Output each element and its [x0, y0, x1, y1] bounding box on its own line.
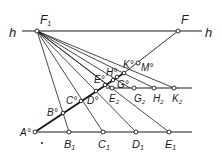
- label-A: A°: [19, 127, 31, 138]
- point-C1: [101, 130, 105, 134]
- label-C1: C1: [98, 138, 110, 151]
- label-h-left: h: [9, 25, 16, 40]
- stray-dot: [41, 142, 43, 144]
- diagram-canvas: h h F1 F A° B° C° D° E° G° H° K° M° B1 C…: [0, 0, 222, 166]
- label-F: F: [181, 13, 189, 27]
- label-B1: B1: [64, 138, 75, 151]
- label-E1: E1: [165, 138, 176, 151]
- label-E: E°: [94, 74, 105, 85]
- point-M: [136, 61, 140, 65]
- point-C: [79, 99, 83, 103]
- label-E2: E2: [109, 93, 120, 105]
- label-K2: K2: [172, 93, 183, 105]
- point-E1: [167, 130, 171, 134]
- point-F: [176, 29, 180, 33]
- point-K: [122, 71, 126, 75]
- point-F1: [35, 29, 39, 33]
- point-G: [111, 78, 115, 82]
- label-H: H°: [106, 67, 117, 78]
- label-F1: F1: [40, 13, 51, 27]
- point-B1: [67, 130, 71, 134]
- label-H2: H2: [153, 93, 164, 105]
- point-A: [33, 130, 37, 134]
- point-E2: [110, 86, 114, 90]
- point-G2: [132, 86, 136, 90]
- label-G2: G2: [134, 93, 146, 105]
- point-D1: [134, 130, 138, 134]
- point-K2: [172, 86, 176, 90]
- label-D: D°: [87, 95, 98, 106]
- label-C: C°: [66, 95, 77, 106]
- label-M: M°: [141, 62, 153, 73]
- label-h-right: h: [205, 25, 212, 40]
- label-G: G°: [117, 79, 129, 90]
- label-D1: D1: [132, 138, 144, 151]
- label-B: B°: [47, 107, 58, 118]
- point-B: [61, 111, 65, 115]
- point-H2: [152, 86, 156, 90]
- point-D: [94, 89, 98, 93]
- label-K: K°: [123, 59, 134, 70]
